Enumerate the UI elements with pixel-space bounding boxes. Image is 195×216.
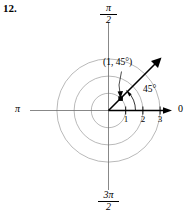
pi-over-2-numerator: π xyxy=(105,3,112,13)
angle-arc-label: 45° xyxy=(143,85,156,95)
polar-axis-arrowhead xyxy=(163,107,172,114)
data-point-label: (1, 45°) xyxy=(103,58,132,68)
axis-label-pi: π xyxy=(15,104,20,114)
axis-label-3pi-over-2: 3π 2 xyxy=(98,190,119,212)
axis-label-zero: 0 xyxy=(178,104,183,114)
tick-label-1: 1 xyxy=(121,115,131,124)
tick-label-3: 3 xyxy=(155,115,165,124)
axis-label-pi-over-2: π 2 xyxy=(100,3,117,25)
pi-over-2-denominator: 2 xyxy=(105,15,112,25)
figure-page: 12. π xyxy=(0,0,195,216)
tick-label-2: 2 xyxy=(138,115,148,124)
three-pi-over-2-denominator: 2 xyxy=(105,202,112,212)
polar-plot-figure xyxy=(0,0,195,216)
three-pi-over-2-numerator: 3π xyxy=(102,190,114,200)
